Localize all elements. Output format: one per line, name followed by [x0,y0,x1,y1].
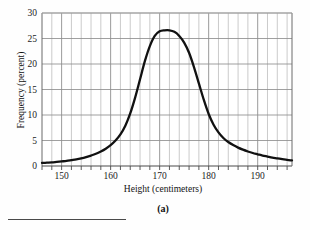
y-tick-label: 15 [28,85,38,95]
x-tick-label: 160 [104,171,119,181]
y-tick-label: 25 [28,34,38,44]
footer-rule [8,219,126,220]
x-tick-label: 170 [153,171,168,181]
x-tick-label: 180 [202,171,217,181]
figure-caption: (a) [157,203,169,215]
x-tick-label: 190 [251,171,266,181]
figure-container: 051015202530 150160170180190 Height (cen… [0,0,310,230]
frequency-distribution-chart: 051015202530 150160170180190 Height (cen… [0,0,310,230]
y-axis-title: Frequency (percent) [16,52,27,129]
y-tick-label: 30 [28,8,38,18]
x-axis-title: Height (centimeters) [124,184,202,195]
y-tick-label: 5 [32,136,37,146]
y-tick-label: 10 [28,110,38,120]
y-tick-label: 20 [28,59,38,69]
x-tick-label: 150 [54,171,69,181]
y-tick-label: 0 [32,161,37,171]
